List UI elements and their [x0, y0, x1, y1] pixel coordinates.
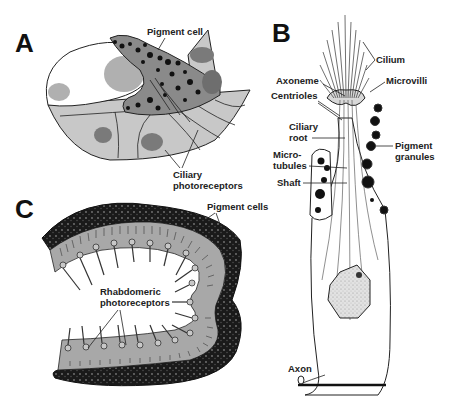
panel-letter-c: C [15, 194, 34, 224]
label-pigment-cells: Pigment cells [207, 201, 268, 212]
label-microtubules-2: tubules [273, 160, 307, 171]
label-ciliary-1: Ciliary [173, 169, 203, 180]
leader-microvilli [370, 82, 385, 92]
label-ciliary-root-2: root [289, 132, 308, 143]
cilium-fan [320, 15, 369, 98]
nucleus [190, 47, 214, 63]
label-pigment-granules-2: granules [395, 151, 435, 162]
panel-letter-b: B [272, 18, 291, 48]
photoreceptor-nucleus [141, 133, 163, 151]
label-ciliary-root-1: Ciliary [289, 121, 319, 132]
label-pigment-cell: Pigment cell [147, 26, 203, 37]
panel-a: A [15, 26, 250, 191]
figure-canvas: A [0, 0, 452, 413]
axon-stub [298, 376, 304, 384]
leader-cilium [363, 42, 375, 70]
label-centrioles: Centrioles [271, 90, 317, 101]
panel-b: B [271, 15, 435, 395]
pigment-cell-nucleus [202, 70, 222, 94]
label-axoneme: Axoneme [276, 75, 319, 86]
label-microvilli: Microvilli [386, 75, 427, 86]
nucleolus [356, 272, 362, 278]
label-axon: Axon [288, 363, 312, 374]
panel-c: C Pigment cel [15, 194, 268, 386]
photoreceptor-nucleus [94, 127, 112, 143]
label-shaft: Shaft [277, 177, 302, 188]
label-pigment-granules-1: Pigment [395, 140, 433, 151]
label-rhabdomeric-1: Rhabdomeric [100, 286, 161, 297]
label-rhabdomeric-2: photoreceptors [100, 297, 170, 308]
leader-pigment-cell [158, 38, 165, 50]
label-ciliary-2: photoreceptors [173, 180, 243, 191]
lens-nucleus-small [48, 83, 70, 101]
label-cilium: Cilium [376, 54, 405, 65]
label-microtubules-1: Micro- [273, 149, 302, 160]
panel-letter-a: A [15, 28, 34, 58]
